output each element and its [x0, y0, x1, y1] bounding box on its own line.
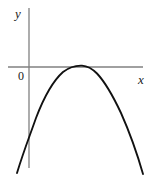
- y-axis-label: y: [15, 7, 21, 20]
- figure-background: [0, 0, 157, 176]
- figure-canvas: [0, 0, 157, 176]
- parabola-figure: y x 0: [0, 0, 157, 176]
- x-axis-label: x: [138, 73, 144, 86]
- origin-label: 0: [18, 70, 24, 82]
